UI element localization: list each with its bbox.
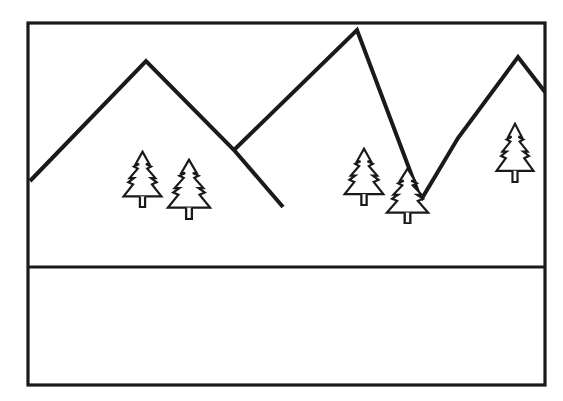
scene-root — [0, 0, 563, 401]
landscape-drawing-canvas — [0, 0, 563, 401]
outer-border — [28, 23, 545, 385]
